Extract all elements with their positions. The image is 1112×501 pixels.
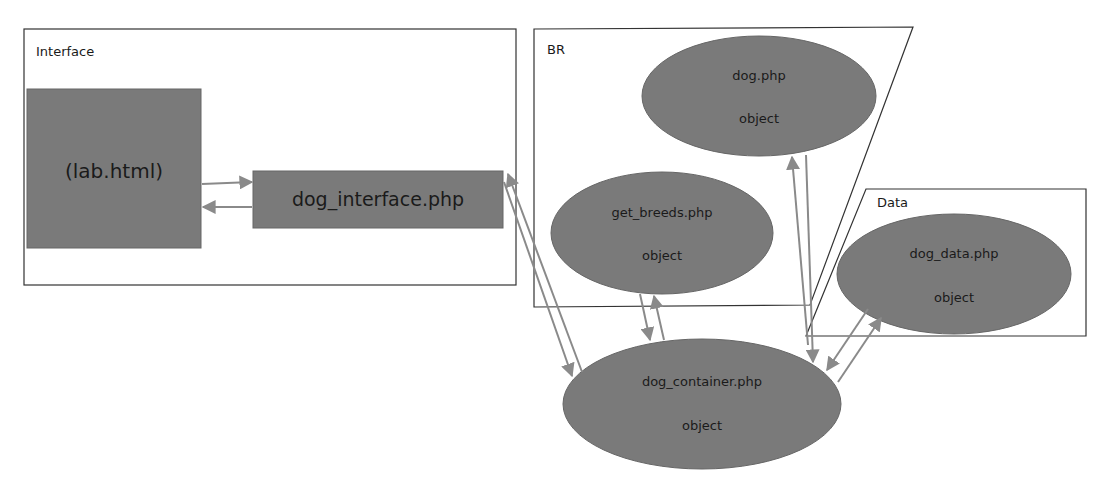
arrow-getbreeds-to-container	[640, 294, 650, 340]
node-lab-html-label: (lab.html)	[65, 159, 163, 183]
region-interface-label: Interface	[36, 44, 94, 59]
arrow-lab-to-interface	[202, 182, 252, 184]
node-dog-container[interactable]: dog_container.php object	[563, 339, 841, 469]
node-dog-data-sublabel: object	[934, 290, 974, 305]
arrow-container-to-getbreeds	[654, 296, 664, 340]
node-dog-label: dog.php	[732, 68, 785, 83]
node-dog-data-label: dog_data.php	[909, 246, 998, 261]
node-get-breeds-sublabel: object	[642, 248, 682, 263]
architecture-diagram: Interface BR Data (lab.html) dog_interfa…	[0, 0, 1112, 501]
arrow-container-to-dog	[792, 157, 808, 345]
region-br-label: BR	[547, 42, 565, 57]
region-data-label: Data	[877, 195, 908, 210]
node-get-breeds[interactable]: get_breeds.php object	[551, 172, 773, 294]
node-dog-interface-label: dog_interface.php	[292, 188, 464, 211]
node-dog-container-sublabel: object	[682, 418, 722, 433]
node-dog-interface[interactable]: dog_interface.php	[253, 171, 503, 228]
node-dog-data[interactable]: dog_data.php object	[837, 214, 1071, 334]
node-dog[interactable]: dog.php object	[642, 36, 876, 156]
node-dog-sublabel: object	[739, 111, 779, 126]
node-get-breeds-label: get_breeds.php	[611, 205, 712, 220]
node-lab-html[interactable]: (lab.html)	[27, 89, 201, 248]
node-dog-container-label: dog_container.php	[642, 374, 762, 389]
